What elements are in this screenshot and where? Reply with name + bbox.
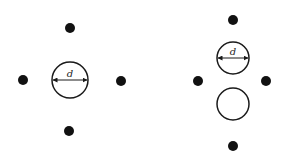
diagram-canvas: d d — [0, 0, 287, 161]
right-top-dot — [228, 15, 238, 25]
right-figure: d — [193, 15, 271, 151]
left-top-dot — [65, 23, 75, 33]
left-diameter-label: d — [67, 68, 73, 79]
left-figure: d — [18, 23, 126, 136]
diagram-svg: d d — [0, 0, 287, 161]
left-right-dot — [116, 76, 126, 86]
right-left-dot — [193, 76, 203, 86]
right-right-dot — [261, 76, 271, 86]
left-left-dot — [18, 75, 28, 85]
left-bottom-dot — [64, 126, 74, 136]
right-lower-hole-circle — [217, 88, 249, 120]
right-bottom-dot — [228, 141, 238, 151]
right-diameter-label: d — [230, 46, 236, 57]
